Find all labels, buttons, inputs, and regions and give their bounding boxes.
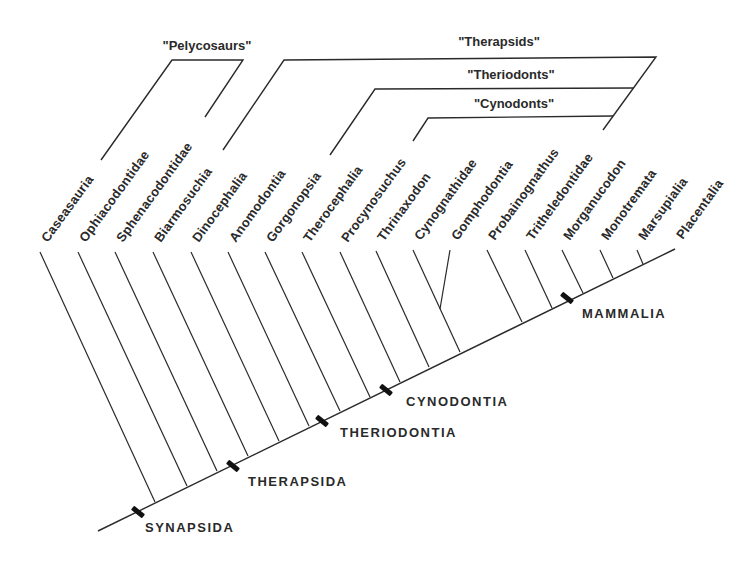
clade-label: CYNODONTIA [406, 394, 508, 409]
synapomorphy-marker [226, 460, 240, 473]
branch-line [302, 252, 370, 397]
branch-line [40, 252, 155, 502]
branch-line [637, 250, 643, 264]
group-label: "Therapsids" [458, 34, 540, 49]
branch-line [115, 252, 217, 471]
clade-label: SYNAPSIDA [145, 520, 234, 535]
branch-line [413, 250, 460, 352]
branch-line [487, 250, 522, 322]
branch-line [562, 250, 583, 293]
clade-label: THERAPSIDA [248, 474, 348, 489]
branch-line [191, 252, 279, 441]
branch-line [600, 250, 613, 278]
branch-line [228, 252, 309, 426]
branch-line [340, 252, 400, 382]
synapomorphy-marker [315, 415, 329, 428]
clade-label: MAMMALIA [582, 306, 666, 321]
synapomorphy-marker [131, 506, 145, 519]
branch-line [440, 250, 450, 309]
branch-line [265, 252, 340, 411]
group-label: "Cynodonts" [474, 96, 554, 111]
synapomorphy-marker [379, 384, 393, 397]
branch-line [525, 250, 552, 308]
group-bracket [413, 116, 613, 141]
group-bracket [101, 60, 243, 160]
clade-label: THERIODONTIA [340, 425, 457, 440]
group-bracket [223, 57, 656, 150]
group-label: "Theriodonts" [467, 67, 554, 82]
branch-line [153, 252, 248, 456]
group-label: "Pelycosaurs" [163, 38, 252, 53]
cladogram-lines [0, 0, 755, 561]
cladogram: CaseasauriaOphiacodontidaeSphenacodontid… [0, 0, 755, 561]
